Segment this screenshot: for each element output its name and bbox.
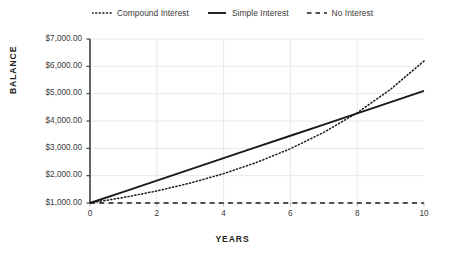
- data-series: [90, 61, 424, 203]
- axis-lines: [87, 39, 425, 207]
- interest-growth-chart: Compound Interest Simple Interest No Int…: [0, 0, 465, 260]
- series-line-compound-interest: [90, 61, 424, 203]
- gridlines: [90, 39, 424, 203]
- plot-canvas: [0, 0, 465, 260]
- series-line-simple-interest: [90, 91, 424, 203]
